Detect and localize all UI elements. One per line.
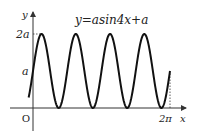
x-tick-2pi: 2π bbox=[158, 113, 172, 124]
sine-curve bbox=[29, 34, 170, 108]
x-axis-label: x bbox=[180, 113, 186, 124]
chart-title: y=asin4x+a bbox=[74, 13, 148, 27]
function-plot: y=asin4x+a y x O 2a a 2π bbox=[0, 0, 197, 137]
y-axis-label: y bbox=[21, 9, 28, 20]
y-tick-a: a bbox=[22, 65, 29, 78]
origin-label: O bbox=[22, 112, 30, 124]
y-tick-2a: 2a bbox=[15, 28, 30, 41]
